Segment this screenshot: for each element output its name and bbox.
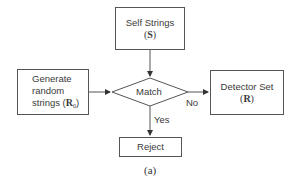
detector-set-label: Detector Set bbox=[221, 81, 274, 93]
yes-edge-label: Yes bbox=[154, 114, 170, 125]
no-edge-label: No bbox=[186, 97, 198, 108]
generate-random-strings-box: Generate random strings (R0) bbox=[17, 69, 89, 115]
self-strings-symbol: (S) bbox=[144, 29, 156, 41]
self-strings-box: Self Strings (S) bbox=[115, 7, 185, 50]
self-strings-label: Self Strings bbox=[126, 17, 175, 29]
detector-set-box: Detector Set (R) bbox=[210, 70, 284, 115]
figure-caption: (a) bbox=[144, 164, 156, 176]
detector-set-symbol: (R) bbox=[240, 93, 254, 105]
reject-box: Reject bbox=[119, 137, 182, 157]
generate-line2: random bbox=[32, 85, 64, 97]
generate-line3: strings (R0) bbox=[32, 97, 79, 112]
match-label: Match bbox=[136, 86, 162, 97]
generate-line1: Generate bbox=[32, 73, 72, 85]
reject-label: Reject bbox=[137, 141, 164, 153]
